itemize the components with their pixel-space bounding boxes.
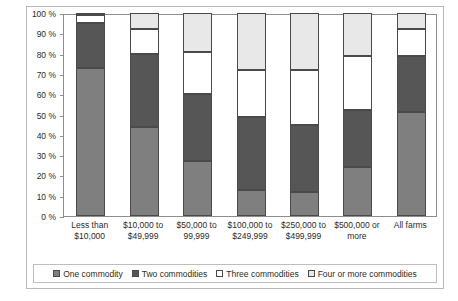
x-axis-category-line: $499,999 <box>277 231 330 242</box>
bar-segment <box>397 13 426 29</box>
x-axis-category-label: $250,000 to$499,999 <box>277 220 330 241</box>
legend-swatch-icon <box>308 270 315 277</box>
bar-segment <box>183 94 212 161</box>
bar-segment <box>76 23 105 68</box>
legend-label: One commodity <box>63 269 123 279</box>
bar-segment <box>183 52 212 95</box>
bar-segment <box>237 190 266 216</box>
bar-segment <box>130 127 159 216</box>
bar-segment <box>397 112 426 216</box>
legend-swatch-icon <box>132 270 139 277</box>
x-axis-category-line: All farms <box>384 220 437 231</box>
y-axis-tick-label: 60 % <box>37 91 56 100</box>
y-axis-tick-label: 30 % <box>37 152 56 161</box>
legend-item: Four or more commodities <box>308 269 417 279</box>
bar-column <box>290 15 319 216</box>
x-axis-category-line: $10,000 <box>63 231 116 242</box>
x-axis-category-line: more <box>330 231 383 242</box>
x-axis-category-line: $250,000 to <box>277 220 330 231</box>
x-axis-category-line: Less than <box>63 220 116 231</box>
bar-column <box>343 15 372 216</box>
legend-item: Three commodities <box>216 269 298 279</box>
bar-segment <box>397 29 426 55</box>
bar-segment <box>397 56 426 113</box>
bar-column <box>237 15 266 216</box>
bar-stack <box>130 15 159 216</box>
x-axis-category-line: $49,999 <box>116 231 169 242</box>
legend-swatch-icon <box>53 270 60 277</box>
plot-area <box>63 14 437 217</box>
bar-stack <box>237 15 266 216</box>
bar-segment <box>237 13 266 70</box>
x-axis-category-line: 99,999 <box>170 231 223 242</box>
x-axis-category-label: $10,000 to$49,999 <box>116 220 169 241</box>
bar-segment <box>183 161 212 216</box>
bar-column <box>183 15 212 216</box>
bar-segment <box>343 13 372 56</box>
bar-segment <box>130 13 159 29</box>
legend-label: Two commodities <box>142 269 208 279</box>
y-axis-tick-label: 100 % <box>32 10 56 19</box>
bar-stack <box>397 15 426 216</box>
legend-item: One commodity <box>53 269 123 279</box>
bar-segment <box>343 56 372 111</box>
bar-segment <box>290 125 319 192</box>
y-axis-tick-label: 0 % <box>41 213 56 222</box>
bar-segment <box>130 29 159 53</box>
legend-label: Three commodities <box>226 269 298 279</box>
x-axis-category-line: $100,000 to <box>223 220 276 231</box>
plot-inner <box>64 15 436 216</box>
bar-segment <box>183 13 212 52</box>
bar-segment <box>343 110 372 167</box>
bar-stack <box>343 15 372 216</box>
y-axis-tick-mark <box>60 217 64 218</box>
legend-label: Four or more commodities <box>318 269 417 279</box>
y-axis-tick-label: 20 % <box>37 172 56 181</box>
bar-segment <box>290 192 319 216</box>
chart-legend: One commodityTwo commoditiesThree commod… <box>33 264 437 283</box>
y-axis-tick-label: 50 % <box>37 111 56 120</box>
bar-segment <box>290 13 319 70</box>
y-axis-tick-label: 40 % <box>37 132 56 141</box>
bar-segment <box>237 70 266 117</box>
y-axis-tick-label: 80 % <box>37 50 56 59</box>
x-axis-category-line: $50,000 to <box>170 220 223 231</box>
bar-segment <box>237 117 266 190</box>
bar-column <box>397 15 426 216</box>
y-axis: 0 %10 %20 %30 %40 %50 %60 %70 %80 %90 %1… <box>18 14 60 217</box>
bar-stack <box>183 15 212 216</box>
bar-stack <box>290 15 319 216</box>
y-axis-tick-label: 10 % <box>37 192 56 201</box>
bar-column <box>76 15 105 216</box>
x-axis-category-line: $10,000 to <box>116 220 169 231</box>
bars-layer <box>64 15 436 216</box>
x-axis-category-label: Less than$10,000 <box>63 220 116 241</box>
stacked-bar-chart: 0 %10 %20 %30 %40 %50 %60 %70 %80 %90 %1… <box>0 0 458 301</box>
x-axis-labels: Less than$10,000$10,000 to$49,999$50,000… <box>63 220 437 254</box>
bar-segment <box>76 68 105 216</box>
x-axis-category-label: $100,000 to$249,999 <box>223 220 276 241</box>
x-axis-category-line: $249,999 <box>223 231 276 242</box>
x-axis-category-line: $500,000 or <box>330 220 383 231</box>
y-axis-tick-label: 90 % <box>37 30 56 39</box>
bar-segment <box>343 167 372 216</box>
bar-segment <box>130 54 159 127</box>
x-axis-category-label: All farms <box>384 220 437 231</box>
bar-segment <box>76 15 105 23</box>
bar-stack <box>76 15 105 216</box>
legend-swatch-icon <box>216 270 223 277</box>
bar-segment <box>290 70 319 125</box>
y-axis-tick-label: 70 % <box>37 71 56 80</box>
legend-item: Two commodities <box>132 269 208 279</box>
x-axis-category-label: $500,000 ormore <box>330 220 383 241</box>
bar-column <box>130 15 159 216</box>
x-axis-category-label: $50,000 to99,999 <box>170 220 223 241</box>
